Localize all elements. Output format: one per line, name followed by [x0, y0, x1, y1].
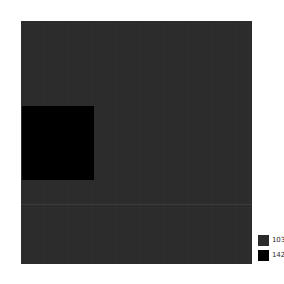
raster-seam-line: [21, 204, 252, 205]
legend: 103 142: [258, 235, 284, 261]
figure-canvas: 103 142: [0, 0, 284, 284]
legend-swatch-142: [258, 250, 269, 261]
label-region-142[interactable]: [22, 106, 94, 180]
legend-swatch-103: [258, 235, 269, 246]
legend-item-103[interactable]: 103: [258, 235, 284, 246]
legend-item-142[interactable]: 142: [258, 250, 284, 261]
legend-label-103: 103: [272, 235, 284, 246]
label-map-raster[interactable]: [21, 21, 252, 264]
legend-label-142: 142: [272, 250, 284, 261]
